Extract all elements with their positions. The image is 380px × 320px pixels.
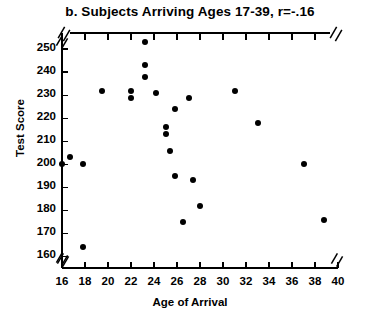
data-point bbox=[301, 161, 307, 167]
y-tick-label: 240 bbox=[14, 64, 56, 76]
y-tick-label: 210 bbox=[14, 133, 56, 145]
data-point bbox=[167, 148, 173, 154]
data-point bbox=[80, 161, 86, 167]
data-point bbox=[172, 106, 178, 112]
x-tick-label: 40 bbox=[322, 275, 354, 287]
y-tick-label: 190 bbox=[14, 179, 56, 191]
data-point bbox=[172, 173, 178, 179]
scatter-plot-figure: b. Subjects Arriving Ages 17-39, r=-.16 … bbox=[0, 0, 380, 320]
data-point bbox=[128, 95, 134, 101]
data-point bbox=[186, 95, 192, 101]
data-point bbox=[163, 131, 169, 137]
y-tick-label: 200 bbox=[14, 156, 56, 168]
y-tick-label: 160 bbox=[14, 248, 56, 260]
data-point bbox=[142, 39, 148, 45]
y-tick-label: 250 bbox=[14, 41, 56, 53]
y-tick-label: 230 bbox=[14, 87, 56, 99]
y-tick-label: 180 bbox=[14, 202, 56, 214]
data-point bbox=[80, 244, 86, 250]
y-tick-label: 170 bbox=[14, 225, 56, 237]
data-point bbox=[255, 120, 261, 126]
data-point bbox=[232, 88, 238, 94]
data-point bbox=[128, 88, 134, 94]
plot-axes bbox=[0, 0, 380, 320]
data-point bbox=[321, 217, 327, 223]
y-tick-label: 220 bbox=[14, 110, 56, 122]
data-point bbox=[142, 74, 148, 80]
data-point bbox=[180, 219, 186, 225]
data-point bbox=[99, 88, 105, 94]
data-point bbox=[197, 203, 203, 209]
